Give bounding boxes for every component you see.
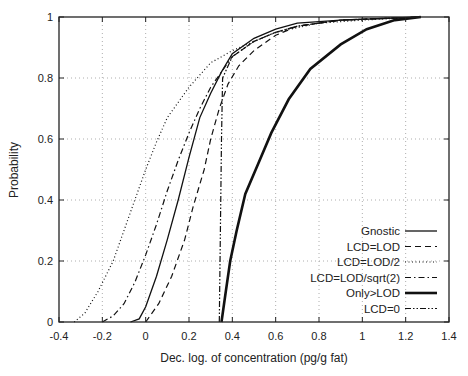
x-axis-label: Dec. log. of concentration (pg/g fat) — [160, 351, 347, 365]
cdf-chart: -0.4-0.200.20.40.60.811.21.400.20.40.60.… — [0, 0, 468, 376]
x-tick-label: -0.4 — [50, 330, 69, 342]
x-tick-label: 1.2 — [398, 330, 413, 342]
x-tick-label: 0 — [143, 330, 149, 342]
x-tick-label: 0.2 — [181, 330, 196, 342]
x-tick-label: 1 — [359, 330, 365, 342]
legend-label: LCD=LOD/sqrt(2) — [310, 272, 400, 284]
legend-label: LCD=LOD/2 — [337, 256, 400, 268]
y-tick-label: 0.4 — [38, 194, 53, 206]
legend-label: Only>LOD — [346, 287, 400, 299]
x-tick-label: -0.2 — [93, 330, 112, 342]
x-tick-label: 0.6 — [268, 330, 283, 342]
y-tick-label: 0 — [47, 316, 53, 328]
legend: GnosticLCD=LODLCD=LOD/2LCD=LOD/sqrt(2)On… — [310, 225, 437, 315]
y-tick-label: 0.2 — [38, 255, 53, 267]
y-tick-label: 1 — [47, 11, 53, 23]
y-tick-label: 0.8 — [38, 72, 53, 84]
legend-label: Gnostic — [361, 225, 400, 237]
x-tick-label: 0.4 — [225, 330, 240, 342]
y-tick-label: 0.6 — [38, 133, 53, 145]
legend-label: LCD=LOD — [347, 241, 400, 253]
y-axis-label: Probability — [7, 142, 21, 198]
legend-label: LCD=0 — [364, 303, 400, 315]
x-tick-label: 1.4 — [441, 330, 456, 342]
x-tick-label: 0.8 — [311, 330, 326, 342]
